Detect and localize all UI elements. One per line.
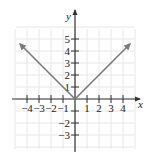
y-tick-label: 4 xyxy=(65,45,71,57)
y-tick-label: 2 xyxy=(65,69,71,81)
y-axis-label: y xyxy=(65,10,71,22)
labels: x y xyxy=(65,10,143,110)
curve-right-arm xyxy=(75,44,130,99)
x-tick-label: 3 xyxy=(108,102,114,114)
x-tick-label: −4 xyxy=(21,102,33,114)
chart: −4−3−2−11234−3−212345 x y xyxy=(0,0,153,155)
x-tick-label: 4 xyxy=(120,102,126,114)
x-tick-label: 1 xyxy=(84,102,90,114)
y-tick-label: −2 xyxy=(58,117,70,129)
x-axis-label: x xyxy=(137,98,143,110)
x-tick-label: 2 xyxy=(96,102,102,114)
axes xyxy=(12,10,140,152)
x-tick-label: −3 xyxy=(33,102,45,114)
y-tick-label: −3 xyxy=(58,129,70,141)
vertex-point xyxy=(74,98,76,100)
x-tick-label: −2 xyxy=(45,102,57,114)
y-tick-label: 5 xyxy=(65,33,71,45)
y-tick-label: 3 xyxy=(65,57,71,69)
x-tick-label: −1 xyxy=(57,102,69,114)
